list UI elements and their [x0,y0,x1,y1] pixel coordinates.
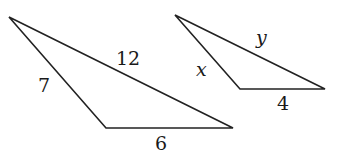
similar-triangles-diagram: 7 12 6 x y 4 [0,0,342,160]
small-triangle-bottom-side-label: 4 [277,92,289,114]
large-triangle-bottom-side-label: 6 [155,132,167,154]
large-triangle-left-side-label: 7 [38,74,50,96]
large-triangle-top-side-label: 12 [116,47,140,69]
small-triangle-top-side-label: y [255,26,267,48]
small-triangle-left-side-label: x [196,58,207,80]
